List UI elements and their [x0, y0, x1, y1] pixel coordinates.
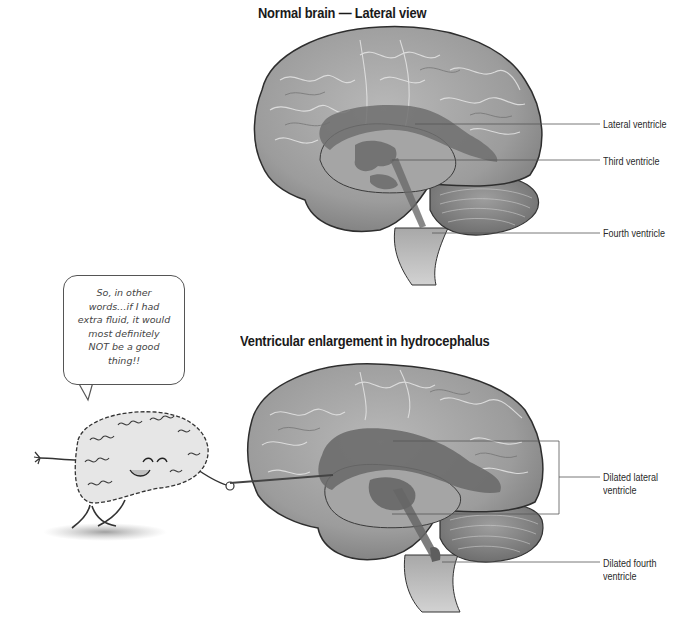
label-dilated-fourth-ventricle: Dilated fourth ventricle — [603, 557, 657, 583]
label-third-ventricle: Third ventricle — [603, 155, 660, 168]
hydrocephalus-brain-illustration — [248, 364, 600, 612]
speech-bubble-text: So, in other words…if I had extra fluid,… — [66, 286, 182, 367]
label-fourth-ventricle: Fourth ventricle — [603, 227, 665, 240]
normal-brain-illustration — [254, 27, 600, 285]
label-dilated-lateral-ventricle: Dilated lateral ventricle — [603, 471, 658, 497]
label-lateral-ventricle: Lateral ventricle — [603, 118, 667, 131]
